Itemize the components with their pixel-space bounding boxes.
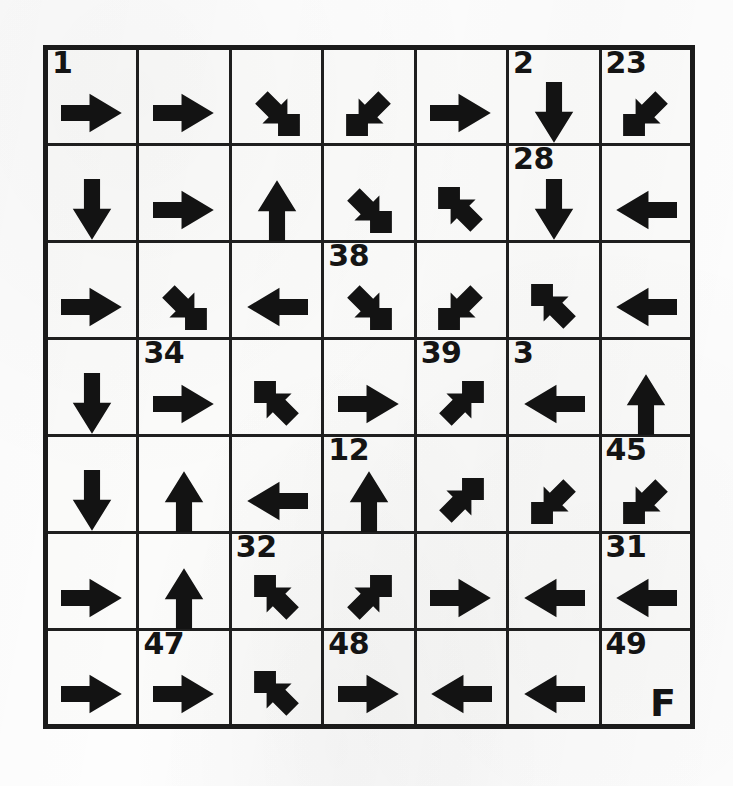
grid-cell[interactable] (415, 630, 507, 727)
cell-inner (324, 534, 413, 628)
grid-cell[interactable]: 23 (600, 48, 692, 145)
grid-cell[interactable] (415, 48, 507, 145)
arrow-left-icon (602, 572, 690, 624)
grid-cell[interactable]: 12 (323, 436, 415, 533)
arrow-down-right-icon (232, 87, 321, 139)
arrow-up-icon (602, 378, 690, 430)
arrow-left-icon (602, 184, 690, 236)
cell-number-label: 28 (513, 144, 554, 174)
grid-cell[interactable]: 38 (323, 242, 415, 339)
cell-inner: 12 (324, 437, 413, 531)
grid-cell[interactable]: 48 (323, 630, 415, 727)
grid-cell[interactable] (600, 242, 692, 339)
grid-cell[interactable] (138, 242, 230, 339)
arrow-down-right-icon (324, 281, 413, 333)
grid-cell[interactable] (415, 533, 507, 630)
cell-inner (509, 534, 598, 628)
cell-inner: 3 (509, 340, 598, 434)
grid-cell[interactable] (230, 436, 322, 533)
cell-inner: 23 (602, 50, 690, 143)
grid-cell[interactable] (230, 242, 322, 339)
grid-cell[interactable] (46, 533, 138, 630)
arrow-down-icon (509, 87, 598, 139)
cell-inner: 31 (602, 534, 690, 628)
grid-cell[interactable] (46, 436, 138, 533)
grid-cell[interactable]: 31 (600, 533, 692, 630)
cell-inner (417, 243, 506, 337)
grid-cell[interactable]: 34 (138, 339, 230, 436)
arrow-right-icon (48, 87, 136, 139)
grid-cell[interactable] (230, 145, 322, 242)
cell-inner: 2 (509, 50, 598, 143)
arrow-right-icon (139, 184, 228, 236)
cell-inner (602, 243, 690, 337)
grid-cell[interactable]: 49F (600, 630, 692, 727)
arrow-down-icon (48, 184, 136, 236)
cell-number-label: 32 (236, 532, 277, 562)
grid-cell[interactable]: 45 (600, 436, 692, 533)
cell-inner (417, 50, 506, 143)
arrow-right-icon (48, 668, 136, 720)
grid-cell[interactable] (230, 339, 322, 436)
cell-inner (232, 631, 321, 724)
grid-cell[interactable]: 39 (415, 339, 507, 436)
grid-cell[interactable] (600, 339, 692, 436)
arrow-down-right-icon (139, 281, 228, 333)
grid-cell[interactable] (415, 242, 507, 339)
arrow-up-right-icon (324, 572, 413, 624)
arrow-up-icon (324, 475, 413, 527)
arrow-up-right-icon (417, 475, 506, 527)
grid-cell[interactable]: 32 (230, 533, 322, 630)
arrow-right-icon (417, 572, 506, 624)
grid-cell[interactable]: 2 (508, 48, 600, 145)
grid-cell[interactable] (323, 339, 415, 436)
arrow-up-left-icon (232, 572, 321, 624)
arrow-down-left-icon (324, 87, 413, 139)
cell-inner: 32 (232, 534, 321, 628)
cell-number-label: 23 (606, 48, 647, 78)
grid-cell[interactable] (46, 145, 138, 242)
grid-cell[interactable] (138, 48, 230, 145)
cell-number-label: 2 (513, 48, 533, 78)
arrow-left-icon (417, 668, 506, 720)
cell-inner (509, 243, 598, 337)
grid-cell[interactable]: 28 (508, 145, 600, 242)
grid-cell[interactable] (415, 436, 507, 533)
grid-cell[interactable] (138, 145, 230, 242)
grid-cell[interactable] (415, 145, 507, 242)
cell-inner (417, 534, 506, 628)
arrow-right-icon (48, 281, 136, 333)
cell-inner (509, 437, 598, 531)
grid-cell[interactable]: 3 (508, 339, 600, 436)
grid-cell[interactable] (600, 145, 692, 242)
cell-number-label: 47 (143, 629, 184, 659)
grid-cell[interactable] (46, 630, 138, 727)
arrow-puzzle-grid: 122328383439312453231474849F (43, 45, 695, 729)
arrow-right-icon (48, 572, 136, 624)
arrow-down-left-icon (417, 281, 506, 333)
grid-cell[interactable]: 1 (46, 48, 138, 145)
grid-cell[interactable] (138, 533, 230, 630)
grid-cell[interactable] (508, 630, 600, 727)
grid-cell[interactable] (46, 242, 138, 339)
grid-cell[interactable] (508, 533, 600, 630)
arrow-up-left-icon (232, 668, 321, 720)
grid-cell[interactable] (508, 242, 600, 339)
grid-cell[interactable] (230, 630, 322, 727)
arrow-left-icon (232, 281, 321, 333)
arrow-up-left-icon (509, 281, 598, 333)
grid-cell[interactable] (508, 436, 600, 533)
grid-cell[interactable] (323, 533, 415, 630)
cell-inner (139, 146, 228, 240)
cell-inner (48, 437, 136, 531)
grid-cell[interactable]: 47 (138, 630, 230, 727)
grid-cell[interactable] (46, 339, 138, 436)
grid-row: 1245 (46, 436, 693, 533)
grid-row: 474849F (46, 630, 693, 727)
cell-inner (139, 534, 228, 628)
grid-cell[interactable] (323, 48, 415, 145)
grid-cell[interactable] (230, 48, 322, 145)
arrow-up-icon (139, 572, 228, 624)
grid-cell[interactable] (138, 436, 230, 533)
grid-cell[interactable] (323, 145, 415, 242)
